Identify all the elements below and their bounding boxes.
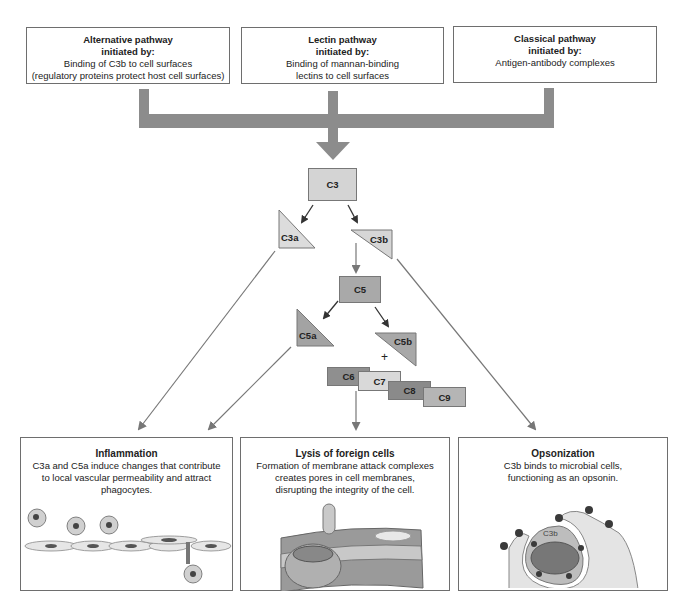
pathway-merge-connector (139, 88, 554, 160)
c3a-label: C3a (281, 232, 298, 243)
plus-sign: + (381, 350, 388, 364)
inflammation-desc-1: C3a and C5a induce changes that contribu… (21, 460, 232, 472)
membrane-attack-complex-illustration (241, 496, 449, 591)
lysis-title: Lysis of foreign cells (241, 448, 449, 460)
c5-node: C5 (339, 276, 381, 303)
lysis-box: Lysis of foreign cells Formation of memb… (240, 437, 450, 591)
opsonization-desc-2: functioning as an opsonin. (459, 472, 667, 484)
c3b-illustration-label: C3b (543, 529, 558, 538)
c3b-label: C3b (370, 234, 388, 245)
c5b-label: C5b (394, 336, 412, 347)
inflammation-box: Inflammation C3a and C5a induce changes … (20, 437, 233, 591)
opsonization-desc-1: C3b binds to microbial cells, (459, 460, 667, 472)
c5a-label: C5a (299, 330, 316, 341)
inflammation-title: Inflammation (21, 448, 232, 460)
lysis-desc-1: Formation of membrane attack complexes (241, 460, 449, 472)
c9-node: C9 (423, 387, 466, 407)
inflammation-desc-3: phagocytes. (21, 484, 232, 496)
opsonization-box: Opsonization C3b binds to microbial cell… (458, 437, 668, 591)
opsonization-title: Opsonization (459, 448, 667, 460)
lysis-desc-2: creates pores in cell membranes, (241, 472, 449, 484)
inflammation-desc-2: to local vascular permeability and attra… (21, 472, 232, 484)
lysis-desc-3: disrupting the integrity of the cell. (241, 484, 449, 496)
inflammation-illustration (21, 498, 232, 588)
opsonization-illustration: C3b (459, 488, 667, 588)
c3-node: C3 (308, 168, 357, 201)
